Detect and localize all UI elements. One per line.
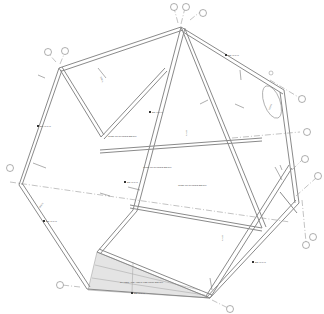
grid-lines — [10, 8, 316, 308]
beam — [210, 168, 292, 298]
span-label: SPAN — [186, 130, 188, 136]
grid-bubble — [45, 49, 52, 56]
beam — [100, 141, 262, 153]
beam-tag-label: BEAM TYP — [255, 261, 267, 263]
beam — [19, 185, 87, 289]
grid-bubble — [303, 242, 310, 249]
grid-bubble — [183, 4, 190, 11]
beam — [100, 211, 137, 254]
beam-tag-label: BEAM TYP — [40, 125, 52, 127]
grid-line — [212, 300, 228, 308]
grid-line — [10, 182, 290, 222]
arrow — [200, 100, 208, 104]
beam-tag-label: BEAM TYP — [134, 292, 146, 294]
arrow — [33, 163, 46, 168]
beam-tags — [37, 54, 254, 294]
callout-marker — [269, 71, 273, 75]
beam — [133, 27, 181, 210]
grid-bubble — [310, 234, 317, 241]
beam — [22, 183, 90, 287]
beam — [97, 210, 133, 252]
hatched-roof-area — [88, 252, 210, 298]
span-label: SPAN — [38, 202, 44, 208]
beam — [206, 165, 289, 296]
beam — [101, 68, 165, 137]
beam — [183, 32, 283, 94]
beam-tag-marker — [131, 292, 133, 294]
grid-bubble — [171, 4, 178, 11]
text-labels: BEAM TYP BEAM TYP BEAM TYP BEAM TYP BEAM… — [38, 54, 272, 294]
beam-tag-label: BEAM TYP — [152, 111, 164, 113]
framing-plan-drawing: BEAM TYP BEAM TYP BEAM TYP BEAM TYP BEAM… — [0, 0, 324, 314]
arrow — [280, 165, 282, 170]
grid-line — [190, 12, 200, 20]
beam — [210, 203, 299, 298]
arrow — [240, 70, 241, 80]
grid-line — [302, 200, 306, 242]
span-label: SPAN — [268, 103, 272, 110]
beam-tag-label: BEAM TYP — [46, 220, 58, 222]
beam-tag-marker — [252, 261, 254, 263]
perimeter-beams — [19, 27, 299, 298]
beam — [284, 90, 299, 203]
grid-bubble — [315, 173, 322, 180]
hatched-area-label: SHADED AREA INDICATES ROOF BELOW — [120, 281, 164, 283]
beam — [104, 71, 167, 139]
beam — [181, 27, 262, 228]
beam-tag-marker — [149, 111, 151, 113]
beam-tag-marker — [37, 125, 39, 127]
grid-bubble — [57, 282, 64, 289]
beam-tag-marker — [225, 54, 227, 56]
grid-bubble — [62, 48, 69, 55]
grid-line — [62, 285, 80, 287]
interior-beams — [59, 27, 297, 298]
room-label: OPEN TO OUTSIDE BELOW — [108, 135, 138, 137]
beam — [280, 92, 295, 203]
beam — [59, 27, 181, 68]
grid-bubble — [299, 96, 306, 103]
arrow — [275, 167, 282, 180]
beam-tag-marker — [124, 181, 126, 183]
beam — [59, 68, 101, 137]
beam-tag-marker — [43, 220, 45, 222]
grid-bubble — [200, 10, 207, 17]
beam — [62, 30, 183, 71]
room-label: OPEN TO OUTSIDE BELOW — [143, 166, 173, 168]
room-label: OPEN TO OUTSIDE BELOW — [178, 184, 208, 186]
grid-bubble — [304, 129, 311, 136]
beam — [130, 208, 262, 231]
arrow — [235, 104, 244, 108]
span-label: SPAN — [222, 235, 224, 241]
beam-tag-label: BEAM TYP — [228, 54, 240, 56]
grid-bubble — [7, 165, 14, 172]
grid-bubble — [227, 306, 234, 313]
grid-bubbles — [7, 4, 322, 313]
arrow — [100, 193, 110, 196]
span-label: SPAN — [100, 76, 104, 83]
beam-tag-label: BEAM TYP — [127, 181, 139, 183]
beam — [181, 27, 284, 90]
grid-bubble — [302, 156, 309, 163]
beam — [100, 138, 262, 150]
beam — [62, 67, 104, 135]
beam — [22, 70, 62, 185]
grid-line — [296, 178, 316, 196]
arrow — [38, 75, 45, 78]
